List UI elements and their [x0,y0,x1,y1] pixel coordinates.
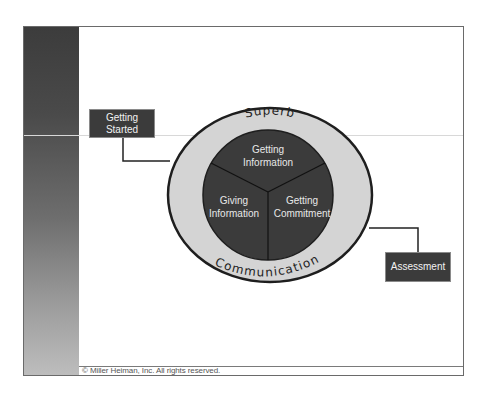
segment-top-line2: Information [243,157,293,168]
getting-started-line2: Started [106,124,138,136]
segment-right-line1: Getting [286,195,318,206]
segment-left-line1: Giving [220,195,248,206]
getting-started-box: Getting Started [89,109,155,138]
communication-diagram: Superb Communication Getting Information… [0,0,489,403]
segment-right-line2: Commitment [274,208,331,219]
assessment-label: Assessment [391,261,445,273]
segment-left-line2: Information [209,208,259,219]
getting-started-line1: Getting [106,112,138,124]
start-connector [123,138,170,161]
segment-top-line1: Getting [252,144,284,155]
end-connector [369,228,418,252]
assessment-box: Assessment [385,252,451,282]
